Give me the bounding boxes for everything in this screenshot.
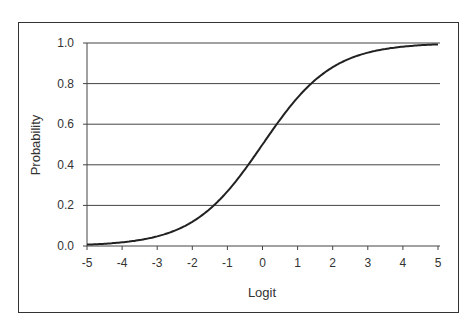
y-tick-label: 0.8 [57,77,74,91]
y-tick-label: 0.2 [57,198,74,212]
x-axis-title: Logit [248,285,277,300]
x-tick-label: 0 [259,256,266,270]
x-tick-label: -2 [187,256,198,270]
y-tick-label: 0.6 [57,117,74,131]
x-tick-label: -3 [152,256,163,270]
x-tick-label: 4 [400,256,407,270]
y-tick-label: 1.0 [57,36,74,50]
y-axis-title: Probability [28,114,43,175]
logistic-chart: 0.00.20.40.60.81.0-5-4-3-2-1012345 Logit… [0,0,474,331]
x-tick-label: 5 [435,256,442,270]
y-tick-label: 0.4 [57,158,74,172]
axes: 0.00.20.40.60.81.0-5-4-3-2-1012345 [57,36,441,270]
logistic-curve [87,44,438,244]
x-tick-label: -5 [82,256,93,270]
x-tick-label: -1 [222,256,233,270]
y-tick-label: 0.0 [57,239,74,253]
x-tick-label: 3 [364,256,371,270]
x-tick-label: 1 [294,256,301,270]
x-tick-label: 2 [329,256,336,270]
x-tick-label: -4 [117,256,128,270]
